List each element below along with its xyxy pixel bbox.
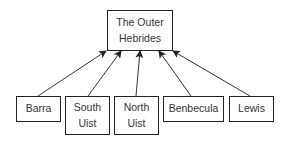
node-label: South Uist [74,100,101,130]
node-benbecula: Benbecula [163,96,224,122]
edge-south-uist-to-root [88,51,121,96]
node-label: North Uist [124,100,150,130]
edge-benbecula-to-root [159,51,191,96]
edge-north-uist-to-root [136,51,140,96]
edge-barra-to-root [38,51,106,96]
node-label: Benbecula [169,101,219,116]
node-label: Lewis [238,101,265,116]
node-north-uist: North Uist [114,96,159,135]
node-label: Barra [26,101,52,116]
node-label: The Outer Hebrides [116,15,163,45]
node-south-uist: South Uist [65,96,110,135]
node-lewis: Lewis [229,96,274,122]
edge-lewis-to-root [173,51,250,96]
node-barra: Barra [16,96,61,122]
node-the-outer-hebrides: The Outer Hebrides [107,10,173,51]
